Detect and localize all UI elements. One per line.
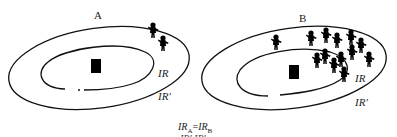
person-icon [347,44,358,60]
diagram-canvas [0,0,397,137]
person-icon [329,57,340,73]
person-icon [346,29,357,45]
facility-square-a [91,59,101,73]
caption-line2: IR' IR' [180,133,206,137]
person-icon [148,22,159,38]
panel-b-outer-label: IR' [355,97,368,108]
panel-b-title: B [299,13,306,24]
panel-b-inner-label: IR [355,73,365,84]
person-icon [158,35,169,51]
panel-a-title: A [94,10,102,21]
facility-square-b [289,65,299,79]
person-icon [332,32,343,48]
person-icon [312,52,323,68]
panel-a-inner-label: IR [158,68,168,79]
person-icon [364,51,375,67]
person-icon [271,34,282,50]
caption-sub-b: B [208,127,213,135]
person-icon [321,27,332,43]
person-icon [356,37,367,53]
panel-a-outer-label: IR' [158,91,171,102]
person-icon [306,30,317,46]
caption-ir-b: IR [198,121,207,132]
